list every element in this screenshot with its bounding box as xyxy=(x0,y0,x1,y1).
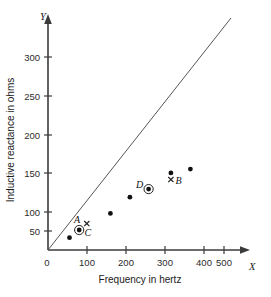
y-tick-label-100: 100 xyxy=(24,207,40,218)
x-tick-label-500: 500 xyxy=(216,257,232,268)
x-tick-label-0: 0 xyxy=(44,257,49,268)
annotation-d-label: D xyxy=(135,179,144,190)
annotation-a-label: A xyxy=(73,214,81,225)
x-tick-label-300: 300 xyxy=(157,257,173,268)
y-tick-label-250: 250 xyxy=(24,91,40,102)
data-point xyxy=(127,195,132,200)
annotation-b-label: B xyxy=(176,175,182,186)
y-tick-label-200: 200 xyxy=(24,130,40,141)
data-point xyxy=(67,235,72,240)
x-tick-label-400: 400 xyxy=(196,257,212,268)
x-axis-symbol: X xyxy=(248,261,256,272)
y-tick-label-300: 300 xyxy=(24,52,40,63)
data-point xyxy=(108,211,113,216)
scatter-plot-svg: 300 250 200 150 100 50 0 100 200 300 400… xyxy=(0,0,271,297)
annotation-c-label: C xyxy=(85,227,92,238)
data-point xyxy=(146,187,151,192)
y-axis-title: Inductive reactance in ohms xyxy=(5,78,16,203)
data-point xyxy=(77,228,82,233)
data-point xyxy=(169,171,174,176)
x-axis-arrowhead xyxy=(240,246,250,254)
y-tick-label-150: 150 xyxy=(24,168,40,179)
x-axis-title: Frequency in hertz xyxy=(99,274,182,285)
x-tick-label-200: 200 xyxy=(118,257,134,268)
y-tick-label-50: 50 xyxy=(29,226,40,237)
x-tick-label-100: 100 xyxy=(79,257,95,268)
data-point xyxy=(188,167,193,172)
chart-figure: 300 250 200 150 100 50 0 100 200 300 400… xyxy=(0,0,271,297)
